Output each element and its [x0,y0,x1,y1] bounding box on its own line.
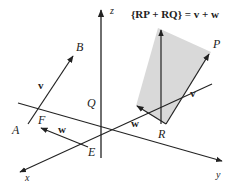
vector-diagram [0,0,238,184]
formula-label: {RP + RQ} = v + w [131,9,219,20]
point-r-label: R [158,128,165,140]
y-axis [18,103,222,161]
point-q-label: Q [87,97,96,109]
point-f-label: F [38,114,45,126]
x-axis [20,84,212,172]
vector-v-right-label: v [190,88,196,99]
x-axis-label: x [25,173,29,183]
point-p-label: P [213,38,220,50]
vector-w-right-label: w [131,118,139,129]
vector-w-left-label: w [58,124,66,135]
point-e-label: E [88,146,95,158]
vector-v-ab [28,56,73,124]
z-axis-label: z [110,6,114,16]
vector-v-left-label: v [38,80,44,91]
point-b-label: B [76,41,83,53]
parallelogram-fill [136,28,211,124]
y-axis-label: y [216,170,220,180]
point-a-label: A [12,124,19,136]
